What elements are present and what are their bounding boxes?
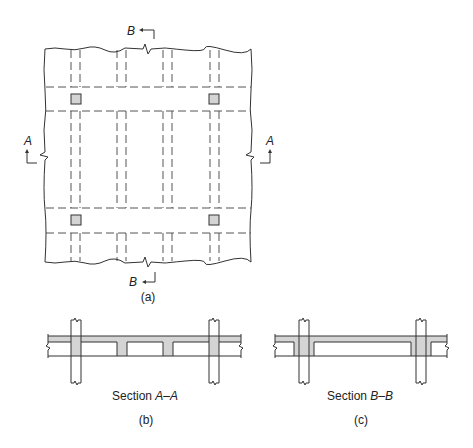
column-bottom-left xyxy=(71,215,81,225)
svg-text:A: A xyxy=(23,134,32,148)
column-top-right xyxy=(209,94,219,104)
section-marker-a-right: A xyxy=(260,134,274,163)
section-bb-caption: (c) xyxy=(354,413,368,427)
svg-text:B: B xyxy=(129,275,137,289)
floor-system-diagram: B B A A (a) xyxy=(0,0,473,448)
plan-left-edge xyxy=(40,49,48,262)
column-top-left xyxy=(71,94,81,104)
section-aa-title: Section A–A xyxy=(112,389,178,403)
section-marker-b-bottom: B xyxy=(129,272,155,289)
plan-top-edge xyxy=(45,44,251,54)
section-bb: Section B–B (c) xyxy=(273,318,449,427)
section-aa: Section A–A (b) xyxy=(46,318,243,427)
plan-caption: (a) xyxy=(141,290,156,304)
section-bb-title: Section B–B xyxy=(327,389,393,403)
plan-right-edge xyxy=(246,49,254,262)
section-marker-a-left: A xyxy=(23,134,37,163)
svg-text:B: B xyxy=(127,24,135,38)
section-marker-b-top: B xyxy=(127,24,154,39)
plan-bottom-edge xyxy=(45,257,251,267)
horizontal-dashed-lines xyxy=(46,87,251,233)
plan-view: B B A A (a) xyxy=(23,24,274,304)
vertical-dashed-lines xyxy=(71,50,219,261)
section-aa-caption: (b) xyxy=(139,413,154,427)
column-bottom-right xyxy=(209,215,219,225)
svg-text:A: A xyxy=(265,134,274,148)
